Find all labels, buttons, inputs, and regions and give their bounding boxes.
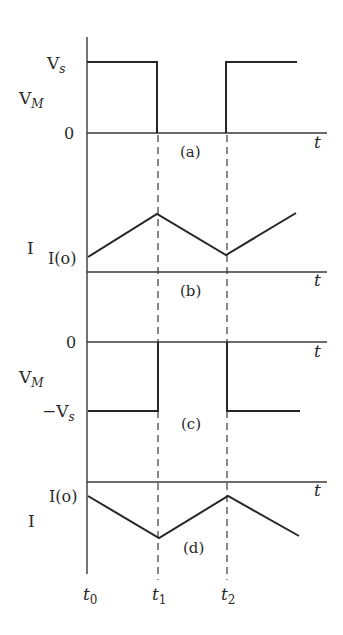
- panel-a-y-label: VM: [18, 88, 44, 111]
- panel-a: Vs VM 0 t (a): [18, 53, 327, 161]
- panel-d: I(o) I t (d): [28, 480, 327, 557]
- panel-d-tick-io: I(o): [49, 487, 77, 506]
- panel-a-tick-vs: Vs: [46, 53, 65, 76]
- panel-a-x-label: t: [314, 132, 321, 152]
- panel-d-current-waveform: [88, 496, 299, 538]
- panel-c-pulse-1: [88, 342, 158, 411]
- panel-c-y-label: VM: [18, 367, 44, 390]
- panel-b-y-label: I: [27, 238, 34, 258]
- panel-b-tick-io: I(o): [48, 249, 76, 268]
- panel-c-caption: (c): [181, 415, 201, 433]
- panel-b-caption: (b): [180, 282, 201, 300]
- panel-a-caption: (a): [180, 143, 201, 161]
- time-label-t0: t0: [83, 584, 97, 607]
- panel-c-tick-neg-vs: −Vs: [42, 401, 75, 424]
- panel-a-tick-zero: 0: [64, 124, 74, 143]
- time-label-t1: t1: [152, 584, 166, 607]
- panel-c-tick-zero: 0: [66, 333, 76, 352]
- time-label-t2: t2: [221, 584, 235, 607]
- panel-c-pulse-2: [227, 342, 300, 411]
- panel-b: I I(o) t (b): [27, 213, 327, 300]
- panel-c: 0 VM −Vs t (c): [18, 333, 327, 433]
- panel-a-pulse-2: [226, 62, 297, 133]
- panel-c-x-label: t: [314, 341, 321, 361]
- panel-d-y-label: I: [28, 511, 35, 531]
- panel-b-current-waveform: [88, 213, 296, 257]
- waveform-diagram: Vs VM 0 t (a) I I(o) t (b) 0 VM −Vs t (c…: [0, 0, 343, 635]
- panel-d-x-label: t: [314, 480, 321, 500]
- panel-a-pulse-1: [87, 62, 157, 133]
- panel-d-caption: (d): [183, 539, 204, 557]
- panel-b-x-label: t: [314, 270, 321, 290]
